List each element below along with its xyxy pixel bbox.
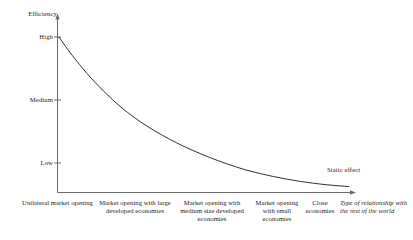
efficiency-relationship-chart: Efficiency High Medium Low Static effect… — [0, 0, 413, 240]
y-tick-label-low: Low — [41, 159, 53, 167]
x-label-close-economies: Close economies — [300, 199, 340, 215]
x-label-medium-size-developed-economies: Market opening with medium size develope… — [172, 199, 252, 224]
x-label-large-developed-economies: Market opening with large developed econ… — [96, 199, 174, 215]
y-tick-label-high: High — [39, 33, 53, 41]
y-axis-title: Efficiency — [28, 10, 57, 18]
x-label-small-economies: Market opening with small economies — [249, 199, 305, 224]
static-effect-curve — [59, 37, 349, 187]
y-tick-label-medium: Medium — [30, 96, 53, 104]
x-axis-label-group: Unilateral market opening Market opening… — [0, 199, 413, 240]
x-label-unilateral-market-opening: Unilateral market opening — [20, 199, 95, 207]
x-axis-title: Type of relationship with the rest of th… — [340, 199, 410, 215]
x-axis-arrow — [350, 190, 356, 194]
static-effect-annotation: Static effect — [327, 166, 360, 174]
